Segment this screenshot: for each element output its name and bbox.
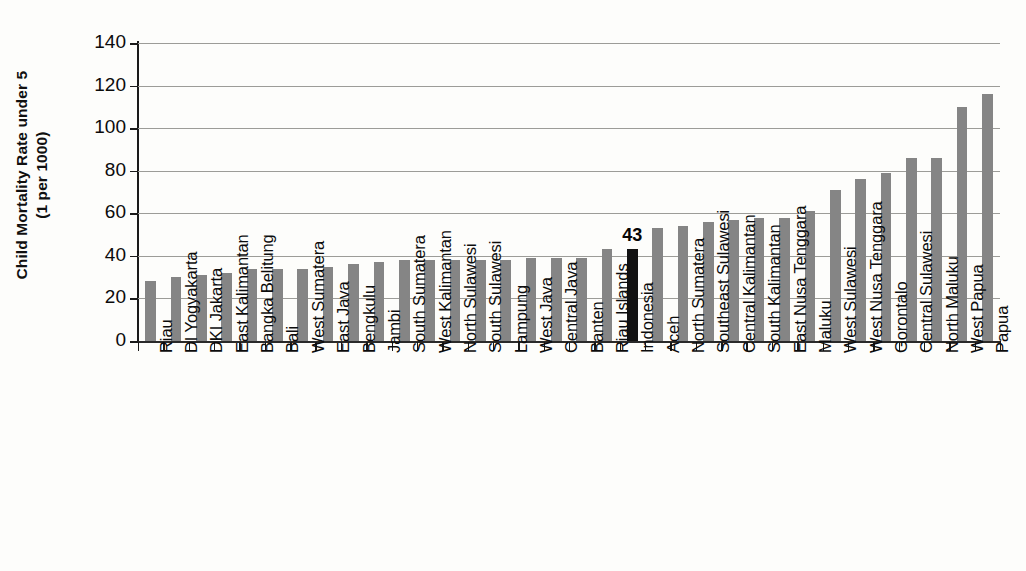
x-tick-mark — [417, 342, 418, 351]
bar-east-kalimantan[interactable] — [221, 273, 232, 341]
y-tick-label-20: 20 — [70, 286, 126, 308]
x-tick-mark — [949, 342, 950, 351]
x-tick-mark — [214, 342, 215, 351]
bar-lampung[interactable] — [500, 260, 511, 341]
x-tick-mark — [746, 342, 747, 351]
y-tick-mark-80 — [130, 171, 138, 173]
x-tick-mark — [138, 342, 139, 351]
bar-bengkulu[interactable] — [348, 264, 359, 341]
bar-west-java[interactable] — [526, 258, 537, 341]
x-tick-mark — [924, 342, 925, 351]
bar-bangka-belitung[interactable] — [247, 269, 258, 341]
x-tick-mark — [518, 342, 519, 351]
y-axis-title-line1: Child Mortality Rate under 5 — [13, 71, 30, 280]
plot-area: 43 — [138, 43, 1000, 341]
bar-bali[interactable] — [272, 269, 283, 341]
y-tick-label-100: 100 — [70, 116, 126, 138]
x-tick-mark — [544, 342, 545, 351]
bar-west-sumatera[interactable] — [297, 269, 308, 341]
bar-west-nusa-tenggara[interactable] — [855, 179, 866, 341]
x-tick-mark — [569, 342, 570, 351]
x-tick-mark — [899, 342, 900, 351]
x-tick-mark — [239, 342, 240, 351]
x-tick-mark — [873, 342, 874, 351]
bar-aceh[interactable] — [652, 228, 663, 341]
bar-southeast-sulawesi[interactable] — [703, 222, 714, 341]
bar-central-kalimantan[interactable] — [728, 220, 739, 341]
bar-dki-jakarta[interactable] — [196, 275, 207, 341]
x-tick-mark — [620, 342, 621, 351]
bar-west-sulawesi[interactable] — [830, 190, 841, 341]
x-tick-mark — [442, 342, 443, 351]
gridlines — [138, 43, 1000, 341]
bar-north-sulawesi[interactable] — [450, 260, 461, 341]
gridline-60 — [138, 213, 1000, 214]
bar-central-sulawesi[interactable] — [906, 158, 917, 341]
y-tick-label-40: 40 — [70, 244, 126, 266]
bar-central-java[interactable] — [551, 258, 562, 341]
bar-north-sumatera[interactable] — [678, 226, 689, 341]
bar-riau[interactable] — [145, 281, 156, 341]
x-tick-mark — [315, 342, 316, 351]
y-tick-mark-20 — [130, 298, 138, 300]
gridline-100 — [138, 128, 1000, 129]
x-tick-mark — [468, 342, 469, 351]
x-tick-mark — [823, 342, 824, 351]
y-tick-mark-140 — [130, 43, 138, 45]
y-tick-mark-40 — [130, 256, 138, 258]
x-tick-mark — [265, 342, 266, 351]
bar-papua[interactable] — [982, 94, 993, 341]
gridline-40 — [138, 256, 1000, 257]
bar-south-sumatera[interactable] — [399, 260, 410, 341]
gridline-120 — [138, 86, 1000, 87]
x-tick-mark — [797, 342, 798, 351]
x-tick-mark — [721, 342, 722, 351]
x-tick-mark — [290, 342, 291, 351]
x-tick-mark — [594, 342, 595, 351]
bar-north-maluku[interactable] — [931, 158, 942, 341]
bar-jambi[interactable] — [374, 262, 385, 341]
x-tick-mark — [392, 342, 393, 351]
y-axis-title: Child Mortality Rate under 5 (1 per 1000… — [0, 0, 64, 350]
y-tick-label-0: 0 — [70, 329, 126, 351]
bar-south-sulawesi[interactable] — [475, 260, 486, 341]
bar-east-nusa-tenggara[interactable] — [779, 218, 790, 341]
x-tick-mark — [493, 342, 494, 351]
bar-indonesia[interactable] — [627, 249, 638, 341]
y-tick-mark-0 — [130, 341, 138, 343]
bar-di-yogyakarta[interactable] — [171, 277, 182, 341]
x-tick-mark — [1000, 342, 1001, 351]
y-tick-mark-100 — [130, 128, 138, 130]
x-tick-mark — [189, 342, 190, 351]
x-tick-mark — [645, 342, 646, 351]
y-tick-label-80: 80 — [70, 159, 126, 181]
x-tick-mark — [848, 342, 849, 351]
y-axis-title-line2: (1 per 1000) — [32, 71, 52, 280]
x-tick-mark — [975, 342, 976, 351]
bar-west-kalimantan[interactable] — [424, 260, 435, 341]
x-tick-mark — [772, 342, 773, 351]
bar-south-kalimantan[interactable] — [754, 218, 765, 341]
bar-banten[interactable] — [576, 258, 587, 341]
bar-west-papua[interactable] — [957, 107, 968, 341]
x-tick-mark — [696, 342, 697, 351]
x-tick-mark — [163, 342, 164, 351]
x-tick-mark — [670, 342, 671, 351]
bar-maluku[interactable] — [805, 211, 816, 341]
y-tick-mark-60 — [130, 213, 138, 215]
gridline-80 — [138, 171, 1000, 172]
chart-container: Child Mortality Rate under 5 (1 per 1000… — [0, 0, 1026, 571]
y-axis-tick-labels: 020406080100120140 — [62, 0, 126, 400]
y-tick-label-140: 140 — [70, 31, 126, 53]
y-tick-label-120: 120 — [70, 74, 126, 96]
bar-east-java[interactable] — [323, 267, 334, 342]
y-tick-label-60: 60 — [70, 201, 126, 223]
gridline-20 — [138, 298, 1000, 299]
x-tick-mark — [341, 342, 342, 351]
bar-riau-islands[interactable] — [602, 249, 613, 341]
gridline-140 — [138, 43, 1000, 44]
x-tick-mark — [366, 342, 367, 351]
y-tick-mark-120 — [130, 86, 138, 88]
bar-gorontalo[interactable] — [881, 173, 892, 341]
